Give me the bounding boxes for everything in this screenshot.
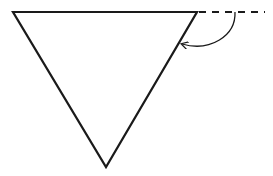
inverted-triangle — [13, 12, 197, 167]
exterior-angle-arc-arrow — [182, 12, 235, 46]
diagram-canvas — [0, 0, 273, 176]
diagram-svg — [0, 0, 273, 176]
